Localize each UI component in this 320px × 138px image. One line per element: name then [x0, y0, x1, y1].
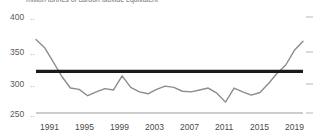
right-axis-ticks — [306, 17, 313, 113]
y-tick-300-dots: .. — [30, 79, 35, 89]
y-tick-350: 350 — [10, 47, 24, 57]
y-tick-250-dots: .. — [30, 109, 35, 119]
x-tick-2011: 2011 — [215, 122, 234, 132]
y-tick-400: 400 — [10, 12, 24, 22]
y-axis-labels: 400 .. 350 .. 300 .. 250 .. — [10, 12, 35, 119]
y-tick-350-dots: .. — [30, 47, 35, 57]
x-tick-1995: 1995 — [75, 122, 94, 132]
x-tick-1991: 1991 — [40, 122, 59, 132]
x-tick-2019: 2019 — [285, 122, 304, 132]
x-tick-2007: 2007 — [180, 122, 199, 132]
y-tick-250: 250 — [10, 109, 24, 119]
x-axis-labels: 1991 1995 1999 2003 2007 2011 2015 2019 — [40, 122, 304, 132]
y-tick-400-dots: .. — [30, 12, 35, 22]
x-tick-2015: 2015 — [250, 122, 269, 132]
line-chart-plot: 400 .. 350 .. 300 .. 250 .. 1991 1995 19… — [0, 0, 320, 138]
chart-container: million tonnes of carbon dioxide equival… — [0, 0, 320, 138]
x-tick-1999: 1999 — [110, 122, 129, 132]
x-tick-2003: 2003 — [145, 122, 164, 132]
y-tick-300: 300 — [10, 79, 24, 89]
